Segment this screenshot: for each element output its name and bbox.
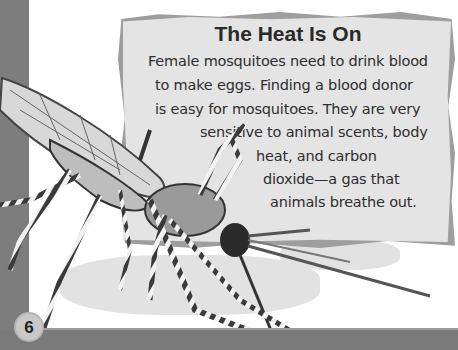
bottom-margin-band	[0, 330, 458, 350]
mosquito-illustration	[0, 0, 458, 350]
page-number: 6	[14, 312, 44, 342]
